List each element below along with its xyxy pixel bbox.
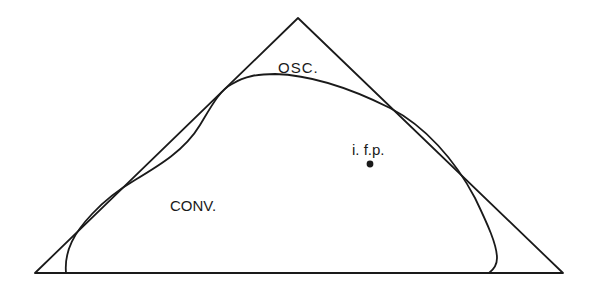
ifp-point-marker <box>367 161 374 168</box>
ifp-point-label: i. f.p. <box>352 141 385 158</box>
osc-region-label: OSC. <box>278 59 319 76</box>
outer-triangle <box>35 18 563 273</box>
boundary-curve <box>66 74 497 273</box>
conv-region-label: CONV. <box>170 197 216 214</box>
phase-diagram: OSC. i. f.p. CONV. <box>0 0 594 300</box>
